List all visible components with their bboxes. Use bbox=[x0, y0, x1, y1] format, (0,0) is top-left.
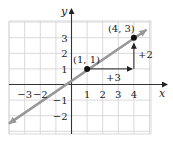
x-tick-label: 4 bbox=[131, 89, 137, 100]
data-line bbox=[9, 30, 146, 124]
slope-graph: xy +3+2 (1, 1)(4, 3) −3−21234−2−1123 bbox=[0, 0, 173, 142]
line-arrow-upper bbox=[9, 30, 146, 124]
data-points: (1, 1)(4, 3) bbox=[73, 23, 137, 72]
grid-lines bbox=[9, 21, 151, 134]
x-tick-label: −3 bbox=[17, 89, 32, 100]
x-axis-label: x bbox=[159, 87, 166, 100]
rise-label: +2 bbox=[138, 49, 153, 60]
y-tick-label: 1 bbox=[61, 64, 67, 75]
y-tick-label: 2 bbox=[61, 48, 67, 59]
y-tick-label: −2 bbox=[53, 111, 68, 122]
x-tick-label: 3 bbox=[115, 89, 121, 100]
y-axis-label: y bbox=[60, 5, 68, 18]
point-label: (4, 3) bbox=[108, 23, 135, 34]
x-tick-label: −2 bbox=[33, 89, 48, 100]
y-tick-label: −1 bbox=[53, 95, 68, 106]
x-tick-label: 2 bbox=[100, 89, 106, 100]
point-label: (1, 1) bbox=[73, 54, 100, 65]
run-label: +3 bbox=[106, 72, 121, 83]
y-tick-label: 3 bbox=[61, 33, 67, 44]
x-tick-label: 1 bbox=[84, 89, 90, 100]
data-point bbox=[84, 66, 90, 72]
data-point bbox=[131, 35, 137, 41]
